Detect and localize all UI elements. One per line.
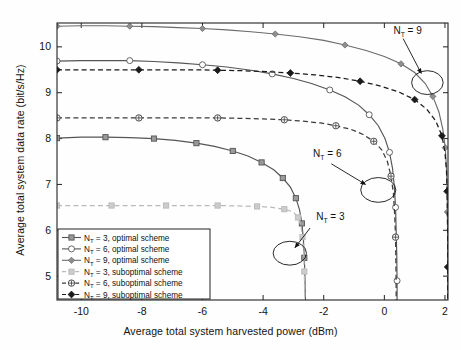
legend-label: NT = 9, suboptimal scheme <box>84 291 183 301</box>
x-tick-label: 0 <box>381 305 387 317</box>
annotation-nt6: NT = 6 <box>313 148 396 202</box>
x-tick-label: -4 <box>258 305 267 317</box>
x-tick-label: -8 <box>137 305 146 317</box>
legend-label: NT = 3, optimal scheme <box>84 234 170 244</box>
annotation-nt3: NT = 3 <box>273 211 345 265</box>
x-tick-label: -10 <box>74 305 89 317</box>
annotation-label: NT = 9 <box>393 25 422 38</box>
legend-label: NT = 6, suboptimal scheme <box>84 279 183 289</box>
y-tick-label: 8 <box>45 132 51 144</box>
y-tick-label: 10 <box>39 40 51 52</box>
legend-label: NT = 6, optimal scheme <box>84 245 170 255</box>
x-tick-label: -2 <box>319 305 328 317</box>
x-tick-label: 2 <box>442 305 448 317</box>
legend-label: NT = 3, suboptimal scheme <box>84 268 183 278</box>
y-axis-title: Average total system data rate (bit/s/Hz… <box>14 20 26 300</box>
annotation-layer: NT = 9NT = 6NT = 3 <box>273 25 443 265</box>
y-tick-label: 6 <box>45 224 51 236</box>
y-tick-label: 9 <box>45 86 51 98</box>
x-axis-title: Average total system harvested power (dB… <box>0 325 461 337</box>
annotation-label: NT = 3 <box>316 211 345 224</box>
figure-container: NT = 9NT = 6NT = 3 NT = 3, optimal schem… <box>0 0 461 350</box>
chart-canvas: NT = 9NT = 6NT = 3 NT = 3, optimal schem… <box>0 0 461 350</box>
y-tick-label: 7 <box>45 178 51 190</box>
x-tick-label: -6 <box>198 305 207 317</box>
annotation-label: NT = 6 <box>313 148 342 161</box>
annotation-nt9: NT = 9 <box>393 25 443 95</box>
y-tick-label: 5 <box>45 270 51 282</box>
legend[interactable]: NT = 3, optimal schemeNT = 6, optimal sc… <box>58 229 210 301</box>
legend-label: NT = 9, optimal scheme <box>84 256 170 266</box>
